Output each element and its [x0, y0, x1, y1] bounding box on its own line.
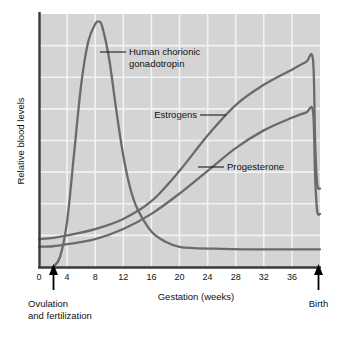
x-tick-label: 12	[118, 272, 128, 282]
x-axis-tick-labels: 04812162024283236	[36, 272, 296, 282]
x-tick-label: 24	[203, 272, 213, 282]
x-tick-label: 28	[231, 272, 241, 282]
series-label-hcg-line1: Human chorionic	[129, 46, 201, 57]
hormone-levels-chart: 04812162024283236 Relative blood levels …	[0, 0, 345, 337]
annotation-ovulation-line1: Ovulation	[28, 298, 68, 309]
x-tick-label: 32	[259, 272, 269, 282]
x-tick-label: 4	[65, 272, 70, 282]
annotation-ovulation-line2: and fertilization	[28, 310, 92, 321]
x-tick-label: 16	[146, 272, 156, 282]
y-axis-title: Relative blood levels	[15, 97, 26, 184]
chart-figure: 04812162024283236 Relative blood levels …	[0, 0, 345, 337]
x-tick-label: 20	[174, 272, 184, 282]
series-label-progesterone: Progesterone	[227, 161, 284, 172]
series-label-estrogens: Estrogens	[154, 109, 197, 120]
series-label-hcg-line2: gonadotropin	[129, 58, 184, 69]
x-tick-label: 8	[93, 272, 98, 282]
x-axis-title: Gestation (weeks)	[158, 291, 235, 302]
x-tick-label: 0	[36, 272, 41, 282]
annotation-birth: Birth	[309, 298, 329, 309]
x-tick-label: 36	[287, 272, 297, 282]
